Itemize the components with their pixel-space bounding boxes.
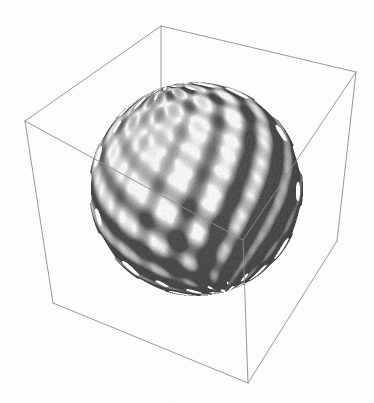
figure-root [0,0,374,403]
bumpy-sphere-surface [0,0,374,403]
